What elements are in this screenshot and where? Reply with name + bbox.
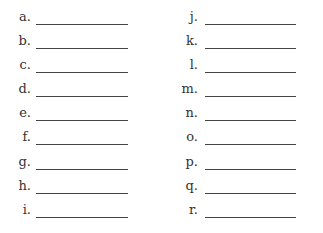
answer-blank[interactable]	[205, 96, 296, 97]
answer-label: k.	[160, 33, 198, 49]
answer-label: h.	[0, 178, 31, 194]
answer-label: b.	[0, 33, 31, 49]
answer-blank[interactable]	[205, 193, 296, 194]
answer-label: j.	[160, 9, 198, 25]
answer-label: r.	[160, 202, 198, 218]
answer-label: a.	[0, 9, 31, 25]
answer-label: n.	[160, 105, 198, 121]
answer-label: c.	[0, 57, 31, 73]
answer-blank[interactable]	[36, 144, 128, 145]
answer-label: i.	[0, 202, 31, 218]
answer-blank[interactable]	[205, 120, 296, 121]
answer-blank[interactable]	[36, 193, 128, 194]
answer-blank[interactable]	[36, 169, 128, 170]
answer-label: d.	[0, 81, 31, 97]
answer-label: o.	[160, 129, 198, 145]
answer-label: f.	[0, 129, 31, 145]
answer-blank[interactable]	[205, 144, 296, 145]
answer-label: e.	[0, 105, 31, 121]
answer-blank[interactable]	[205, 48, 296, 49]
answer-blank[interactable]	[205, 169, 296, 170]
answer-label: l.	[160, 57, 198, 73]
answer-blank[interactable]	[205, 217, 296, 218]
answer-label: g.	[0, 154, 31, 170]
answer-blank[interactable]	[205, 24, 296, 25]
answer-blank[interactable]	[36, 72, 128, 73]
answer-blank[interactable]	[36, 120, 128, 121]
answer-label: p.	[160, 154, 198, 170]
answer-blank[interactable]	[36, 24, 128, 25]
answer-blank[interactable]	[36, 217, 128, 218]
answer-label: m.	[160, 81, 198, 97]
answer-blank[interactable]	[36, 96, 128, 97]
answer-blank[interactable]	[205, 72, 296, 73]
answer-blank[interactable]	[36, 48, 128, 49]
answer-label: q.	[160, 178, 198, 194]
